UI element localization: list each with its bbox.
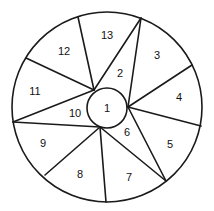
divider-line (128, 107, 201, 126)
region-label-2: 2 (117, 67, 123, 79)
region-label-10: 10 (69, 107, 81, 119)
region-label-5: 5 (167, 138, 173, 150)
region-label-8: 8 (77, 168, 83, 180)
region-label-7: 7 (126, 171, 132, 183)
divider-line (45, 127, 100, 175)
divider-line (13, 90, 94, 122)
segmented-circle-diagram: 12345678910111213 (0, 0, 214, 211)
divider-line (100, 127, 106, 202)
divider-line (128, 65, 192, 107)
region-label-3: 3 (154, 49, 160, 61)
region-label-13: 13 (101, 29, 113, 41)
region-label-11: 11 (29, 85, 40, 97)
region-label-4: 4 (176, 91, 182, 103)
divider-line (128, 107, 166, 181)
divider-line (78, 17, 94, 90)
divider-line (13, 122, 100, 127)
region-label-6: 6 (124, 126, 130, 138)
region-label-1: 1 (104, 102, 110, 114)
divider-line (128, 18, 141, 107)
region-label-12: 12 (58, 45, 70, 57)
region-label-9: 9 (40, 137, 46, 149)
divider-line (100, 127, 166, 181)
